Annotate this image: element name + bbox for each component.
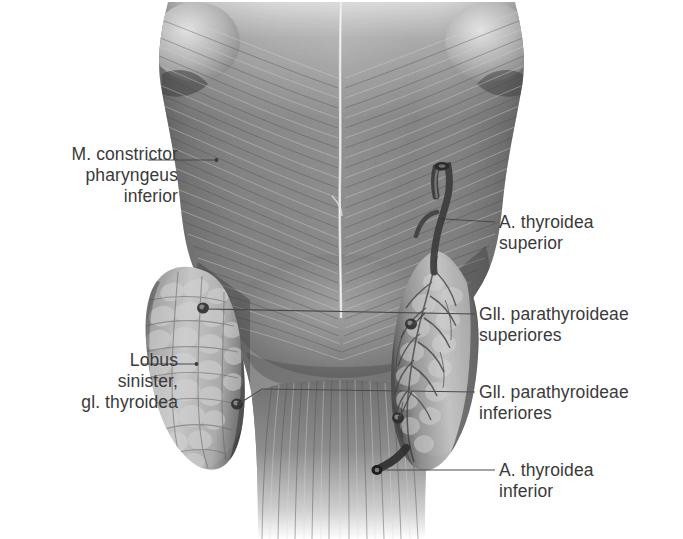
label-gll-parathyroideae-superiores: Gll. parathyroideae superiores bbox=[479, 304, 679, 346]
anatomy-illustration bbox=[0, 0, 683, 539]
label-a-thyroidea-superior: A. thyroidea superior bbox=[499, 212, 679, 254]
label-gll-parathyroideae-inferiores: Gll. parathyroideae inferiores bbox=[479, 382, 679, 424]
label-m-constrictor-pharyngeus-inferior: M. constrictor pharyngeus inferior bbox=[18, 144, 178, 207]
label-a-thyroidea-inferior: A. thyroidea inferior bbox=[499, 460, 679, 502]
label-lobus-sinister-gl-thyroidea: Lobus sinister, gl. thyroidea bbox=[12, 350, 178, 413]
figure-canvas: M. constrictor pharyngeus inferior Lobus… bbox=[0, 0, 683, 539]
